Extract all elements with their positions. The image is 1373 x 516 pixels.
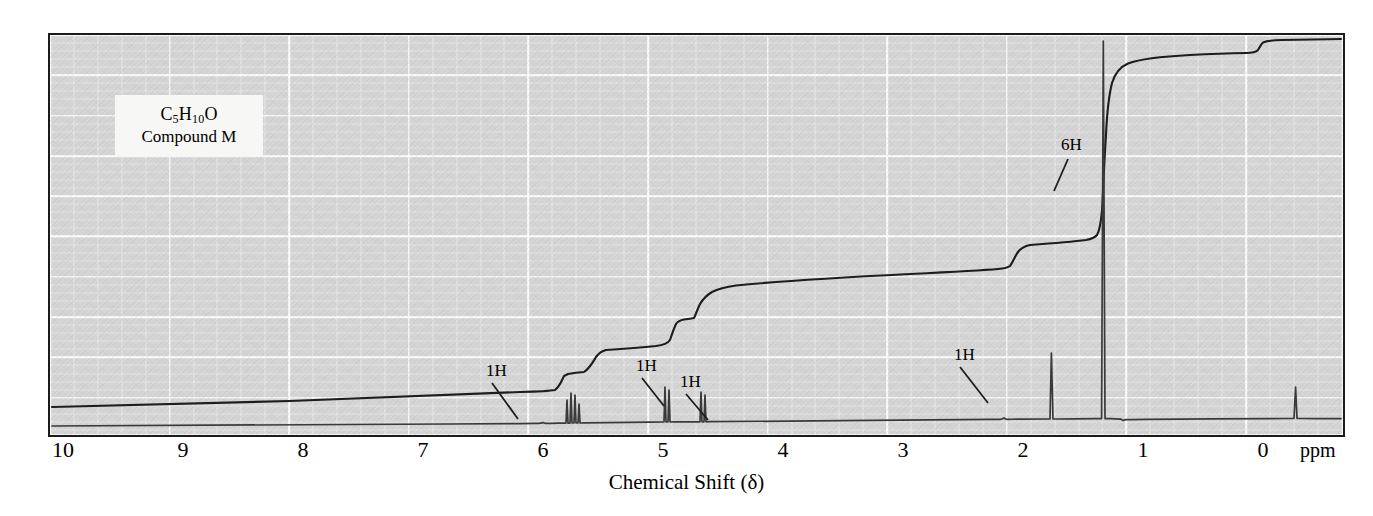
tick-6: 6 bbox=[518, 437, 568, 463]
tick-10: 10 bbox=[38, 437, 88, 463]
axis-unit-label: ppm bbox=[1300, 439, 1336, 462]
compound-label-box: C5H10O Compound M bbox=[115, 95, 263, 157]
molecular-formula: C5H10O bbox=[160, 104, 217, 127]
tick-1: 1 bbox=[1118, 437, 1168, 463]
leader-line-6h-13ppm bbox=[1044, 149, 1104, 197]
leader-line-1h-195ppm bbox=[938, 359, 1008, 407]
tick-9: 9 bbox=[158, 437, 208, 463]
tick-8: 8 bbox=[278, 437, 328, 463]
tick-7: 7 bbox=[398, 437, 448, 463]
axis-title: Chemical Shift (δ) bbox=[0, 470, 1373, 495]
spectrum-plot-area: C5H10O Compound M 1H 1H 1H 1H 6H bbox=[48, 33, 1345, 437]
leader-line-1h-495ppm bbox=[664, 386, 734, 426]
tick-5: 5 bbox=[638, 437, 688, 463]
nmr-figure: C5H10O Compound M 1H 1H 1H 1H 6H 10 bbox=[0, 0, 1373, 516]
tick-0: 0 bbox=[1238, 437, 1288, 463]
compound-name: Compound M bbox=[142, 127, 237, 148]
tick-2: 2 bbox=[998, 437, 1048, 463]
leader-line-1h-6ppm bbox=[470, 375, 550, 423]
axis-tick-labels: 10 9 8 7 6 5 4 3 2 1 0 ppm bbox=[0, 437, 1373, 471]
tick-3: 3 bbox=[878, 437, 928, 463]
tick-4: 4 bbox=[758, 437, 808, 463]
